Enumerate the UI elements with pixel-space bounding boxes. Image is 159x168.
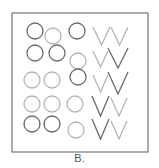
circle-shape-light (67, 96, 83, 112)
circle-group (24, 23, 86, 138)
figure-diagram (0, 0, 159, 168)
v-shape-dark (92, 96, 109, 116)
v-shape-light (93, 27, 110, 45)
v-shape-group (92, 27, 128, 139)
v-shape-dark (92, 119, 109, 139)
v-shape-dark (108, 72, 128, 94)
circle-shape-light (68, 122, 84, 138)
v-shape-light (93, 51, 108, 67)
v-shape-light (111, 27, 128, 45)
circle-shape-dark (27, 23, 43, 39)
circle-shape-light (24, 72, 40, 88)
circle-shape-dark (69, 23, 85, 39)
circle-shape-light (70, 53, 86, 69)
circle-shape-dark (44, 116, 60, 132)
circle-shape-light (44, 96, 60, 112)
circle-shape-dark (24, 116, 40, 132)
circle-shape-dark (27, 45, 43, 61)
circle-shape-dark (49, 45, 65, 61)
v-shape-light (111, 98, 127, 116)
circle-shape-dark (70, 69, 86, 85)
circle-shape-light (24, 96, 40, 112)
figure-frame (12, 13, 148, 152)
v-shape-light (93, 75, 108, 92)
figure-caption: B. (0, 152, 159, 164)
v-shape-dark (108, 48, 128, 68)
v-shape-light (111, 121, 127, 139)
circle-shape-light (44, 72, 60, 88)
circle-shape-light (45, 28, 61, 44)
